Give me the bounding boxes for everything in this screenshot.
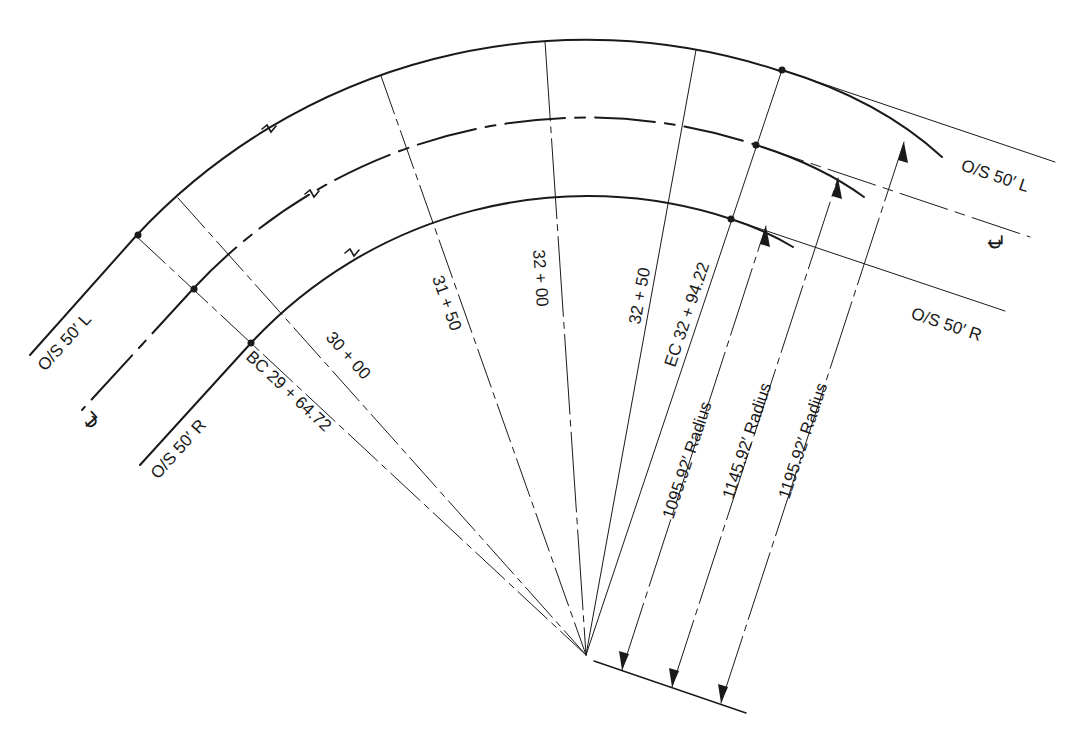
label-radius-cl: 1145.92′ Radius xyxy=(719,380,775,501)
label-station-3250: 32 + 50 xyxy=(625,266,654,326)
label-right-centerline: ℄ xyxy=(985,235,1007,249)
arrow-inner-bottom xyxy=(619,651,629,670)
label-left-centerline: ℄ xyxy=(78,408,104,433)
arrow-cl-bottom xyxy=(669,668,679,687)
label-station-3000: 30 + 00 xyxy=(322,328,374,383)
radial-ec xyxy=(586,70,782,655)
arrow-outer-top xyxy=(898,142,908,163)
arc-cl-ext xyxy=(756,145,864,197)
radial-3000 xyxy=(178,198,586,655)
arc-os-right xyxy=(251,196,731,343)
arc-os-left-ext xyxy=(782,70,942,157)
curve-layout-drawing: O/S 50′ L ℄ O/S 50′ R BC 29 + 64.72 30 +… xyxy=(0,0,1080,729)
label-station-3150: 31 + 50 xyxy=(428,273,465,333)
label-radius-outer: 1195.92′ Radius xyxy=(775,380,831,501)
tangent-os-left-back xyxy=(30,236,136,355)
label-right-os-right: O/S 50′ R xyxy=(909,304,984,345)
point-ec-os-left xyxy=(779,67,786,74)
break-mark-inner xyxy=(345,249,359,256)
tangent-os-right-fwd xyxy=(731,219,1005,311)
label-radius-inner: 1095.92′ Radius xyxy=(659,399,716,521)
point-ec-cl xyxy=(753,142,760,149)
radial-3200 xyxy=(545,41,586,655)
tangent-os-left-fwd xyxy=(782,70,1055,162)
label-left-os-left: O/S 50′ L xyxy=(34,310,95,375)
point-bc-os-left xyxy=(135,232,142,239)
label-left-os-right: O/S 50′ R xyxy=(147,416,210,483)
radial-3150 xyxy=(381,76,586,655)
tangent-cl-back xyxy=(82,289,193,410)
point-bc-os-right xyxy=(248,340,255,347)
label-bc-station: BC 29 + 64.72 xyxy=(242,347,335,435)
label-right-os-left: O/S 50′ L xyxy=(959,156,1032,196)
radial-bc xyxy=(136,236,586,655)
arrow-outer-bottom xyxy=(718,684,728,703)
tangent-os-right-back xyxy=(140,343,251,465)
label-station-3200: 32 + 00 xyxy=(529,249,552,307)
tangent-cl-fwd xyxy=(756,145,1030,237)
point-ec-os-right xyxy=(728,216,735,223)
point-bc-cl xyxy=(191,286,198,293)
